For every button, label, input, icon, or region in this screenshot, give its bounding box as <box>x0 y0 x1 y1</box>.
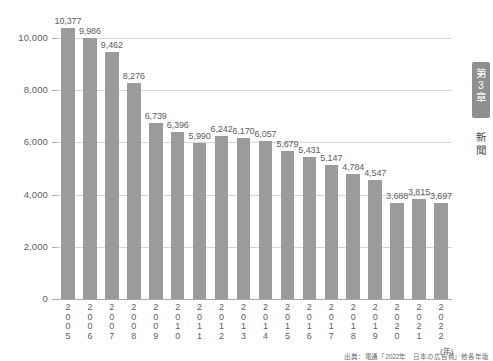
bar[interactable] <box>259 141 273 299</box>
chapter-tab-char: 第 <box>472 67 490 79</box>
bar-value-label: 3,688 <box>386 191 408 201</box>
x-axis-tick-label: 2019 <box>364 303 386 341</box>
bar-slot: 6,396 <box>171 38 185 299</box>
bar[interactable] <box>346 174 360 299</box>
x-axis-tick-label: 2007 <box>101 303 123 341</box>
x-axis-tick-label: 2009 <box>145 303 167 341</box>
bar[interactable] <box>390 203 404 299</box>
bar-value-label: 5,679 <box>276 139 298 149</box>
bar-value-label: 6,242 <box>211 124 233 134</box>
bar-value-label: 8,276 <box>123 71 145 81</box>
bar-value-label: 3,697 <box>430 191 452 201</box>
bar-value-label: 6,739 <box>145 111 167 121</box>
bar-slot: 4,784 <box>346 38 360 299</box>
bar-slot: 6,242 <box>215 38 229 299</box>
chapter-tab-badge[interactable]: 第3章 <box>472 62 490 118</box>
y-axis-tick-label: 2,000 <box>2 241 48 252</box>
y-axis-tick-label: 8,000 <box>2 84 48 95</box>
bar[interactable] <box>368 180 382 299</box>
bar-slot: 9,986 <box>83 38 97 299</box>
section-title-char: 聞 <box>473 144 489 157</box>
bar-slot: 9,462 <box>105 38 119 299</box>
bar[interactable] <box>83 38 97 299</box>
x-axis-tick-label: 2017 <box>320 303 342 341</box>
y-axis-tick-label: 0 <box>2 293 48 304</box>
bar-value-label: 5,431 <box>298 145 320 155</box>
bar[interactable] <box>127 83 141 299</box>
bar[interactable] <box>303 157 317 299</box>
x-axis-tick-label: 2012 <box>211 303 233 341</box>
x-axis-tick-label: 2021 <box>408 303 430 341</box>
bar-slot: 6,739 <box>149 38 163 299</box>
x-axis-tick-label: 2022 <box>430 303 452 341</box>
bar-slot: 5,147 <box>325 38 339 299</box>
bar-chart-figure: 02,0004,0006,0008,00010,000 10,3779,9869… <box>0 0 493 361</box>
bar-slot: 3,688 <box>390 38 404 299</box>
x-axis-tick-label: 2010 <box>167 303 189 341</box>
y-axis-tick-label: 4,000 <box>2 189 48 200</box>
x-axis-tick-label: 2016 <box>298 303 320 341</box>
bar-value-label: 5,990 <box>189 131 211 141</box>
x-axis-tick-label: 2013 <box>233 303 255 341</box>
bar[interactable] <box>281 151 295 299</box>
section-title-newspaper: 新聞 <box>473 131 489 156</box>
bar-slot: 8,276 <box>127 38 141 299</box>
x-axis-tick-label: 2011 <box>189 303 211 341</box>
y-axis-tick-label: 6,000 <box>2 136 48 147</box>
bar[interactable] <box>434 203 448 299</box>
bar[interactable] <box>61 28 75 299</box>
bar-slot: 3,697 <box>434 38 448 299</box>
bar-value-label: 6,396 <box>167 120 189 130</box>
x-axis-tick-label: 2014 <box>255 303 277 341</box>
plot-area: 10,3779,9869,4628,2766,7396,3965,9906,24… <box>57 38 452 299</box>
bar[interactable] <box>149 123 163 299</box>
bar-value-label: 6,170 <box>233 126 255 136</box>
x-axis-tick-label: 2006 <box>79 303 101 341</box>
bar-value-label: 10,377 <box>54 16 81 26</box>
bar-value-label: 4,784 <box>342 162 364 172</box>
bar-slot: 5,679 <box>281 38 295 299</box>
bar[interactable] <box>105 52 119 299</box>
y-axis-tick-label: 10,000 <box>2 32 48 43</box>
x-axis-tick-label: 2018 <box>342 303 364 341</box>
section-title-char: 新 <box>473 131 489 144</box>
bar[interactable] <box>325 165 339 299</box>
bar-slot: 6,057 <box>259 38 273 299</box>
bar[interactable] <box>237 138 251 299</box>
chapter-tab-char: 3 <box>472 79 490 91</box>
bar-slot: 3,815 <box>412 38 426 299</box>
x-axis-tick-label: 2020 <box>386 303 408 341</box>
bar-slot: 4,547 <box>368 38 382 299</box>
bar-slot: 10,377 <box>61 38 75 299</box>
bar-slot: 5,431 <box>303 38 317 299</box>
bar[interactable] <box>171 132 185 299</box>
bar-value-label: 6,057 <box>254 129 276 139</box>
bar-slot: 5,990 <box>193 38 207 299</box>
bar-value-label: 4,547 <box>364 168 386 178</box>
bar-value-label: 9,986 <box>79 26 101 36</box>
x-axis-tick-label: 2008 <box>123 303 145 341</box>
bar-value-label: 9,462 <box>101 40 123 50</box>
x-axis-tick-label: 2005 <box>57 303 79 341</box>
chapter-rail: 第3章 新聞 <box>462 0 492 361</box>
x-axis-tick-label: 2015 <box>276 303 298 341</box>
axis-baseline <box>57 299 452 300</box>
bar-value-label: 5,147 <box>320 153 342 163</box>
bar[interactable] <box>412 199 426 299</box>
bar-value-label: 3,815 <box>408 187 430 197</box>
bar-slot: 6,170 <box>237 38 251 299</box>
bar[interactable] <box>193 143 207 299</box>
chapter-tab-char: 章 <box>472 91 490 103</box>
bar[interactable] <box>215 136 229 299</box>
